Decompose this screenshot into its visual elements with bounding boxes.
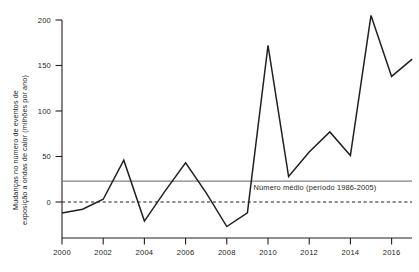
x-tick-label-2000: 2000 <box>53 248 71 257</box>
x-tick-label-2014: 2014 <box>342 248 360 257</box>
mean-reference-annotation: Número médio (período 1986-2005) <box>254 183 377 192</box>
x-tick-label-2016: 2016 <box>383 248 401 257</box>
x-tick-label-2008: 2008 <box>218 248 236 257</box>
y-axis-label: Mudanças no número de eventos de exposiç… <box>11 75 29 225</box>
x-tick-label-2012: 2012 <box>300 248 318 257</box>
x-tick-label-2002: 2002 <box>94 248 112 257</box>
y-axis-label-line2: exposição a ondas de calor (milhões por … <box>20 75 29 225</box>
chart-canvas: Mudanças no número de eventos de exposiç… <box>0 0 419 272</box>
y-tick-label-200: 200 <box>38 16 51 25</box>
x-tick-label-2010: 2010 <box>259 248 277 257</box>
y-tick-label-150: 150 <box>38 61 51 70</box>
y-tick-label-50: 50 <box>42 152 51 161</box>
heat-wave-exposure-line-chart: Mudanças no número de eventos de exposiç… <box>0 0 419 272</box>
y-tick-label-100: 100 <box>38 107 51 116</box>
y-axis-label-line1: Mudanças no número de eventos de <box>11 90 20 210</box>
x-tick-label-2006: 2006 <box>177 248 195 257</box>
y-tick-label-0: 0 <box>47 198 51 207</box>
chart-background <box>0 0 419 272</box>
x-tick-label-2004: 2004 <box>136 248 154 257</box>
